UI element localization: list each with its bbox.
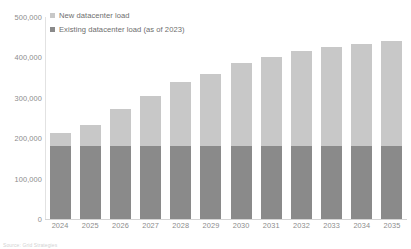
bar-segment-existing-load[interactable] (381, 146, 402, 219)
bar-segment-new-load[interactable] (50, 133, 71, 146)
bar-stack (321, 47, 342, 219)
bar-group-2032[interactable] (286, 17, 316, 219)
bar-segment-existing-load[interactable] (140, 146, 161, 219)
bar-segment-new-load[interactable] (170, 82, 191, 145)
y-axis-tick-label: 400,000 (15, 53, 42, 62)
bar-group-2026[interactable] (105, 17, 135, 219)
bar-group-2025[interactable] (75, 17, 105, 219)
legend-label-existing-load: Existing datacenter load (as of 2023) (59, 25, 185, 34)
y-axis-tick-label: 200,000 (15, 134, 42, 143)
x-axis-tick-label: 2030 (226, 221, 256, 230)
bar-segment-new-load[interactable] (381, 41, 402, 146)
x-axis-tick-label: 2028 (166, 221, 196, 230)
bar-group-2027[interactable] (136, 17, 166, 219)
bar-segment-new-load[interactable] (200, 74, 221, 146)
bar-segment-existing-load[interactable] (261, 146, 282, 219)
bar-segment-existing-load[interactable] (231, 146, 252, 219)
x-axis-tick-label: 2026 (105, 221, 135, 230)
bar-stack (110, 109, 131, 219)
x-axis-tick-label: 2034 (347, 221, 377, 230)
bar-stack (200, 74, 221, 219)
stacked-bar-chart: New datacenter load Existing datacenter … (0, 0, 411, 249)
x-axis-tick-label: 2029 (196, 221, 226, 230)
x-axis-tick-label: 2024 (45, 221, 75, 230)
bar-segment-new-load[interactable] (110, 109, 131, 146)
x-axis-tick-label: 2033 (317, 221, 347, 230)
bar-segment-new-load[interactable] (291, 51, 312, 146)
x-axis-tick-label: 2025 (75, 221, 105, 230)
x-axis-tick-label: 2032 (286, 221, 316, 230)
bar-stack (351, 44, 372, 219)
bar-segment-existing-load[interactable] (200, 146, 221, 219)
bar-segment-new-load[interactable] (140, 96, 161, 146)
bar-group-2024[interactable] (45, 17, 75, 219)
y-axis-tick-label: 100,000 (15, 174, 42, 183)
source-note: Source: Grid Strategies (3, 242, 57, 248)
bar-stack (261, 57, 282, 219)
x-axis-line (45, 219, 407, 220)
y-axis-tick-label: 500,000 (15, 13, 42, 22)
bar-stack (231, 63, 252, 219)
bar-segment-existing-load[interactable] (50, 146, 71, 219)
y-axis-tick-label: 0 (38, 215, 42, 224)
bar-group-2034[interactable] (347, 17, 377, 219)
chart-legend: New datacenter load Existing datacenter … (50, 9, 185, 37)
legend-item-new-datacenter-load: New datacenter load (50, 9, 185, 21)
legend-swatch-icon-new-load (50, 13, 55, 18)
bar-segment-existing-load[interactable] (321, 146, 342, 219)
bar-stack (381, 41, 402, 219)
bar-stack (170, 82, 191, 219)
bar-segment-new-load[interactable] (80, 125, 101, 146)
x-axis: 2024202520262027202820292030203120322033… (45, 221, 407, 230)
legend-label-new-load: New datacenter load (59, 11, 130, 20)
bar-group-2035[interactable] (377, 17, 407, 219)
bar-segment-existing-load[interactable] (291, 146, 312, 219)
y-axis-tick-label: 300,000 (15, 93, 42, 102)
legend-item-existing-datacenter-load: Existing datacenter load (as of 2023) (50, 23, 185, 35)
bar-segment-existing-load[interactable] (110, 146, 131, 219)
bar-segment-existing-load[interactable] (80, 146, 101, 219)
x-axis-tick-label: 2035 (377, 221, 407, 230)
bar-stack (140, 96, 161, 219)
y-axis: 0100,000200,000300,000400,000500,000 (0, 17, 42, 219)
bar-series-group (45, 17, 407, 219)
bar-stack (80, 125, 101, 219)
bar-group-2031[interactable] (256, 17, 286, 219)
bar-segment-new-load[interactable] (321, 47, 342, 146)
x-axis-tick-label: 2031 (256, 221, 286, 230)
bar-segment-new-load[interactable] (351, 44, 372, 146)
bar-segment-new-load[interactable] (231, 63, 252, 145)
x-axis-tick-label: 2027 (136, 221, 166, 230)
bar-group-2030[interactable] (226, 17, 256, 219)
bar-group-2033[interactable] (317, 17, 347, 219)
bar-group-2029[interactable] (196, 17, 226, 219)
bar-group-2028[interactable] (166, 17, 196, 219)
legend-swatch-icon-existing-load (50, 27, 55, 32)
bar-segment-new-load[interactable] (261, 57, 282, 146)
bar-segment-existing-load[interactable] (170, 146, 191, 219)
bar-segment-existing-load[interactable] (351, 146, 372, 219)
bar-stack (50, 133, 71, 219)
bar-stack (291, 51, 312, 219)
